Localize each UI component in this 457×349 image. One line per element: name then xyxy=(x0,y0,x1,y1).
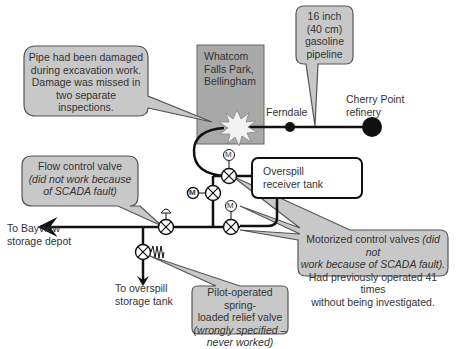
damage-line-5: inspections. xyxy=(26,101,146,114)
overspill-storage-label: To overspill storage tank xyxy=(115,282,173,307)
cherry-point-node xyxy=(362,117,382,137)
callout-damage-text: Pipe had been damaged during excavation … xyxy=(26,51,146,114)
motor-icon-upper: M xyxy=(225,149,232,162)
relief-valve xyxy=(136,245,165,260)
ferndale-label: Ferndale xyxy=(266,106,307,119)
relief-line-1: Pilot-operated spring- xyxy=(192,286,288,311)
pipeline-line-2: (40 cm) xyxy=(296,23,353,36)
damage-line-3: Damage was missed in xyxy=(26,76,146,89)
site-line-3: Bellingham xyxy=(204,75,256,88)
damage-line-1: Pipe had been damaged xyxy=(26,51,146,64)
site-line-1: Whatcom xyxy=(204,50,256,63)
bayview-label: To Bayview storage depot xyxy=(7,222,71,247)
pipeline-line-3: gasoline xyxy=(296,35,353,48)
relief-line-4: never worked) xyxy=(192,336,288,349)
damage-line-2: during excavation work. xyxy=(26,64,146,77)
motorized-line-4: without being investigated. xyxy=(298,296,448,309)
overspill-dest-line-2: storage tank xyxy=(115,295,173,308)
overspill-receiver-label: Overspill receiver tank xyxy=(263,165,323,190)
pipeline-line-1: 16 inch xyxy=(296,10,353,23)
relief-line-3: (wrongly specified – xyxy=(192,324,288,337)
site-line-2: Falls Park, xyxy=(204,63,256,76)
motor-icon-middle: M xyxy=(189,187,196,200)
receiver-line-1: Overspill xyxy=(263,165,323,178)
motorized-line-2: work because of SCADA fault). xyxy=(298,258,448,271)
damage-line-4: two separate xyxy=(26,89,146,102)
callout-pipeline-text: 16 inch (40 cm) gasoline pipeline xyxy=(296,10,353,60)
flow-control-note-1: (did not work because xyxy=(22,173,138,186)
bayview-line-1: To Bayview xyxy=(7,222,71,235)
motor-icon-lower: M xyxy=(227,200,234,213)
motorized-line-1a: Motorized control valves xyxy=(306,233,422,245)
flow-control-note-2: of SCADA fault) xyxy=(22,185,138,198)
pipeline-line-4: pipeline xyxy=(296,48,353,61)
cherry-point-line-1: Cherry Point xyxy=(346,93,404,106)
overspill-dest-line-1: To overspill xyxy=(115,282,173,295)
site-box-label: Whatcom Falls Park, Bellingham xyxy=(204,50,256,88)
cherry-point-label: Cherry Point refinery xyxy=(346,93,404,118)
relief-line-2: loaded relief valve xyxy=(192,311,288,324)
bayview-line-2: storage depot xyxy=(7,235,71,248)
callout-relief-text: Pilot-operated spring- loaded relief val… xyxy=(192,286,288,349)
cherry-point-line-2: refinery xyxy=(346,106,404,119)
spring-icon xyxy=(151,246,164,258)
callout-motorized-text: Motorized control valves (did not work b… xyxy=(298,233,448,308)
callout-flow-control-text: Flow control valve (did not work because… xyxy=(22,160,138,198)
motorized-line-3: Had previously operated 41 times xyxy=(298,271,448,296)
flow-control-title: Flow control valve xyxy=(22,160,138,173)
motorized-line-1: Motorized control valves (did not xyxy=(298,233,448,258)
flow-control-valve xyxy=(159,209,174,235)
receiver-line-2: receiver tank xyxy=(263,178,323,191)
ferndale-node xyxy=(285,122,295,132)
